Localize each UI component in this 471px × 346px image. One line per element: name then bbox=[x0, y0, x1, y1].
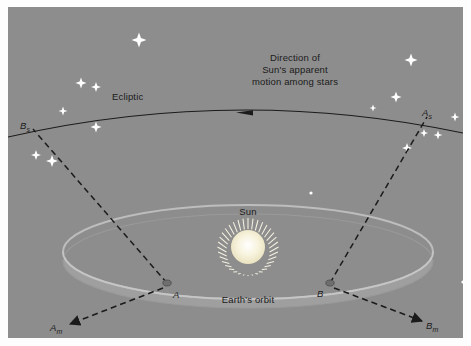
sight-line-b-to-as bbox=[330, 117, 427, 283]
star-glyph bbox=[59, 107, 68, 116]
motion-bm-label: Bm bbox=[426, 320, 438, 336]
star-glyph bbox=[132, 33, 147, 48]
direction-note: Direction of Sun's apparent motion among… bbox=[252, 52, 338, 88]
star-dot bbox=[461, 280, 463, 283]
star-glyph bbox=[76, 78, 87, 89]
diagram-panel: Direction of Sun's apparent motion among… bbox=[8, 7, 463, 338]
diagram-canvas bbox=[8, 7, 463, 338]
sun-graphic bbox=[218, 218, 279, 276]
earth-orbit-label: Earth's orbit bbox=[222, 294, 274, 306]
motion-am-label: Am bbox=[50, 322, 62, 338]
earth-markers bbox=[163, 280, 334, 286]
star-glyph bbox=[391, 92, 402, 103]
earth-position-b-label: B bbox=[317, 288, 324, 300]
ecliptic-direction-arrowhead bbox=[236, 110, 253, 115]
star-glyph bbox=[31, 150, 41, 160]
sun-label: Sun bbox=[239, 206, 256, 218]
direction-note-line-2: Sun's apparent bbox=[252, 64, 338, 76]
star-dot bbox=[309, 191, 312, 194]
direction-note-line-1: Direction of bbox=[252, 52, 338, 64]
figure-page: Direction of Sun's apparent motion among… bbox=[0, 0, 471, 346]
star-glyph bbox=[434, 131, 443, 140]
star-glyph bbox=[451, 113, 460, 122]
star-glyph bbox=[91, 122, 102, 133]
star-glyph bbox=[91, 82, 101, 92]
star-glyph bbox=[46, 155, 58, 167]
ecliptic-curve bbox=[8, 110, 463, 137]
sky-position-as-label: As bbox=[422, 107, 432, 123]
direction-note-line-3: motion among stars bbox=[252, 76, 338, 88]
earth-position-a-label: A bbox=[173, 289, 180, 301]
sight-line-a-to-bs bbox=[33, 129, 167, 283]
sky-position-bs-label: Bs bbox=[20, 120, 30, 136]
star-glyph bbox=[370, 105, 377, 112]
star-glyph bbox=[420, 129, 428, 137]
sight-lines bbox=[33, 117, 427, 283]
star-glyph bbox=[405, 54, 418, 67]
ecliptic-label: Ecliptic bbox=[112, 91, 143, 103]
